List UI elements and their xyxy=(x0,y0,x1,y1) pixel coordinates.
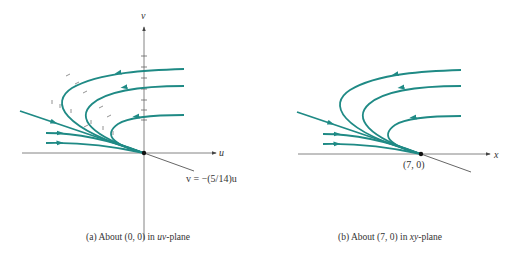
point-label: (7, 0) xyxy=(403,159,425,171)
phase-portraits: u v v = −(5/14)u x (7, 0) xyxy=(0,0,515,259)
caption-a: (a) About (0, 0) in uv-plane xyxy=(86,232,190,242)
eigen-line-label: v = −(5/14)u xyxy=(186,173,237,185)
caption-a-prefix: (a) About (0, 0) in xyxy=(86,232,157,242)
critical-point-dot xyxy=(142,151,146,155)
caption-a-suffix: -plane xyxy=(166,232,190,242)
trajectory-upper xyxy=(62,69,184,153)
trajectory-middle xyxy=(86,86,184,153)
trajectories xyxy=(20,69,184,153)
u-axis-label: u xyxy=(219,147,224,158)
eigen-line xyxy=(144,153,194,171)
panel-a: u v v = −(5/14)u xyxy=(20,10,237,240)
caption-b-prefix: (b) About (7, 0) in xyxy=(338,232,410,242)
caption-b: (b) About (7, 0) in xy-plane xyxy=(338,232,442,242)
trajectory-lower xyxy=(388,116,461,154)
caption-b-var: xy xyxy=(410,232,418,242)
panel-b: x (7, 0) xyxy=(297,70,499,172)
caption-b-suffix: -plane xyxy=(418,232,442,242)
trajectory-upper xyxy=(340,70,461,154)
eigen-line xyxy=(421,154,471,172)
x-axis-label: x xyxy=(493,149,499,160)
trajectory-lower xyxy=(111,115,184,153)
critical-point-dot xyxy=(419,152,423,156)
v-axis-label: v xyxy=(141,10,146,21)
caption-a-var: uv xyxy=(157,232,166,242)
trajectories xyxy=(297,70,461,154)
